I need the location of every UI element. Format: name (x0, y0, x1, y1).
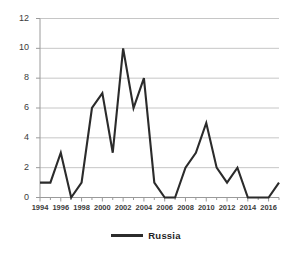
y-axis-tick-label-10: 10 (7, 43, 29, 52)
x-tick-marks (40, 198, 279, 202)
y-axis-tick-label-8: 8 (7, 73, 29, 82)
y-axis-tick-label-4: 4 (7, 133, 29, 142)
chart-legend: Russia (0, 230, 292, 241)
plot-area: 0246810121994199619982000200220042006200… (0, 0, 292, 253)
y-axis-tick-label-0: 0 (7, 193, 29, 202)
line-chart-svg (0, 0, 292, 253)
y-axis-tick-label-2: 2 (7, 163, 29, 172)
series-line-russia (40, 48, 279, 197)
y-tick-marks (36, 19, 40, 198)
legend-line-swatch-russia (111, 234, 143, 237)
x-axis-tick-label-2016: 2016 (256, 204, 282, 212)
chart-container: 0246810121994199619982000200220042006200… (0, 0, 292, 253)
legend-label-russia: Russia (148, 230, 180, 241)
y-axis-tick-label-6: 6 (7, 103, 29, 112)
y-gridlines (40, 19, 279, 198)
y-axis-tick-label-12: 12 (7, 14, 29, 23)
